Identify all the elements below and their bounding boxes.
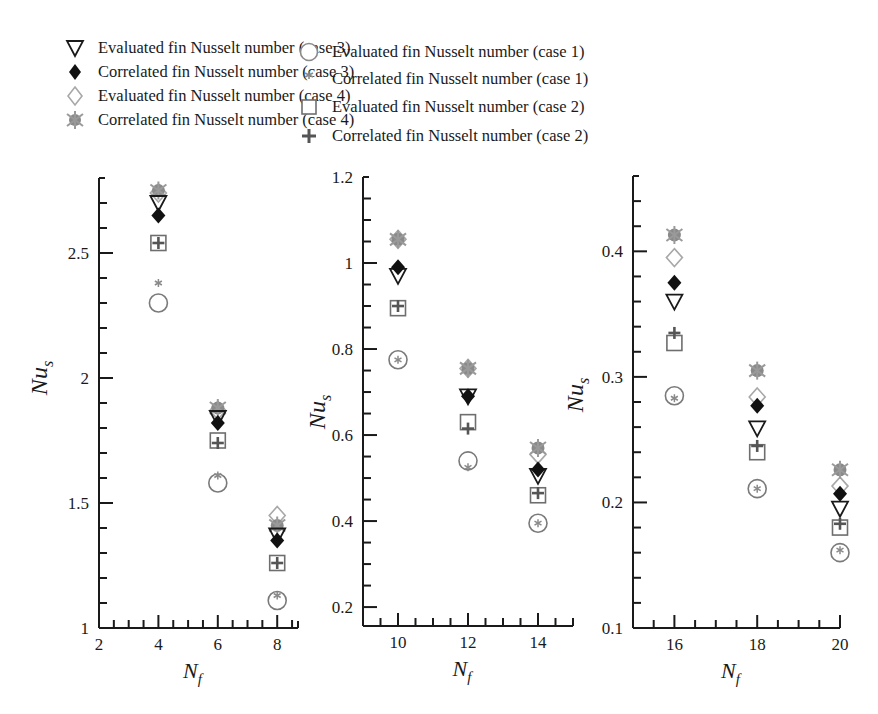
x-tick-label: 4 [154, 635, 163, 654]
axes [99, 178, 298, 628]
series-eval_case1 [149, 294, 286, 610]
y-tick-label: 2 [81, 369, 90, 388]
y-tick-label: 0.2 [332, 598, 353, 617]
y-tick-label: 0.4 [332, 512, 354, 531]
x-axis-title: Nf [452, 656, 474, 685]
y-tick-label: 0.3 [602, 368, 623, 387]
data-points [665, 226, 849, 562]
x-tick-label: 6 [214, 635, 223, 654]
figure: Evaluated fin Nusselt number (case 3) Co… [0, 0, 878, 714]
series-corr_case4 [150, 182, 285, 535]
y-tick-label: 0.1 [602, 619, 623, 638]
x-axis-title: Nf [182, 658, 204, 687]
x-tick-label: 16 [666, 635, 683, 654]
chart-panel-2: 0.20.40.60.811.2101214NfNus [304, 168, 573, 685]
data-points [149, 182, 286, 610]
data-points [389, 230, 547, 532]
y-tick-label: 0.2 [602, 493, 623, 512]
x-tick-label: 18 [749, 635, 766, 654]
plot-area: 11.522.52468NfNus0.20.40.60.811.2101214N… [0, 0, 878, 714]
y-tick-label: 1 [345, 254, 354, 273]
x-tick-label: 2 [95, 635, 104, 654]
y-axis-title: Nus [562, 378, 592, 413]
x-tick-label: 12 [460, 633, 477, 652]
chart-panel-1: 11.522.52468NfNus [26, 178, 298, 687]
x-tick-label: 8 [273, 635, 282, 654]
series-corr_case1 [395, 356, 542, 527]
chart-panel-3: 0.10.20.30.4161820NfNus [562, 176, 849, 687]
series-corr_case1 [671, 394, 844, 554]
x-tick-label: 20 [832, 635, 849, 654]
y-axis-title: Nus [304, 395, 334, 430]
y-tick-label: 1 [81, 619, 90, 638]
axes [633, 176, 840, 628]
x-axis-title: Nf [720, 658, 742, 687]
y-axis-title: Nus [26, 361, 56, 396]
y-tick-label: 1.5 [68, 494, 89, 513]
series-corr_case3 [151, 208, 284, 549]
y-tick-label: 0.8 [332, 340, 353, 359]
y-tick-label: 2.5 [68, 244, 89, 263]
y-tick-label: 0.6 [332, 426, 353, 445]
x-tick-label: 14 [530, 633, 548, 652]
y-tick-label: 1.2 [332, 168, 353, 187]
x-tick-label: 10 [390, 633, 407, 652]
y-tick-label: 0.4 [602, 242, 624, 261]
series-corr_case2 [668, 327, 846, 530]
